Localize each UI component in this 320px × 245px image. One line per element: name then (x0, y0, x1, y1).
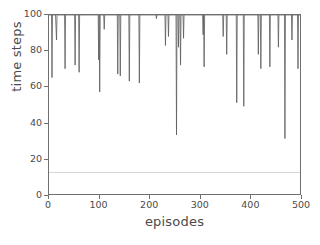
chart-figure: 100 80 60 40 20 0 0 100 200 300 400 500 … (0, 0, 320, 245)
y-tick-label-40: 40 (2, 118, 42, 128)
x-tick-label-500: 500 (281, 200, 320, 210)
series-line (49, 15, 300, 139)
x-tick-label-200: 200 (129, 200, 169, 210)
x-axis-label: episodes (48, 214, 301, 229)
y-axis-label: time steps (9, 2, 24, 112)
x-tick-label-300: 300 (180, 200, 220, 210)
series-svg (49, 15, 300, 194)
x-tick-label-400: 400 (230, 200, 270, 210)
plot-area (48, 14, 301, 195)
x-tick-label-0: 0 (28, 200, 68, 210)
y-tick-label-20: 20 (2, 154, 42, 164)
x-tick-label-100: 100 (79, 200, 119, 210)
y-tick-label-0: 0 (2, 190, 42, 200)
